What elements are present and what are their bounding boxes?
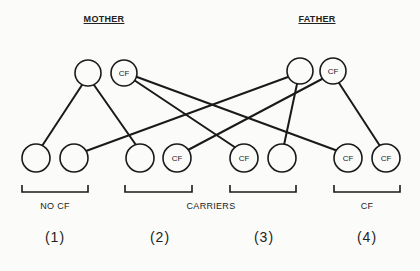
- carriers-label: CARRIERS: [187, 201, 236, 211]
- offspring-circle-1: [22, 144, 50, 172]
- offspring-circle-6: [268, 144, 296, 172]
- offspring-7-text: CF: [343, 154, 354, 163]
- line-m1-o1: [42, 85, 82, 146]
- father-label: FATHER: [298, 14, 335, 24]
- mother-cf-text: CF: [119, 69, 130, 78]
- bracket-group-2: [125, 185, 192, 192]
- bracket-group-1: [22, 185, 88, 192]
- line-m2-o7: [137, 77, 338, 151]
- group-number-3: (3): [254, 229, 274, 245]
- group-1-label: NO CF: [40, 201, 70, 211]
- offspring-5-text: CF: [239, 154, 250, 163]
- father-normal-circle: [287, 58, 313, 84]
- offspring-8-text: CF: [381, 154, 392, 163]
- mother-normal-circle: [75, 60, 101, 86]
- line-f2-o8: [339, 83, 380, 146]
- offspring-circle-2: [60, 144, 88, 172]
- offspring-circle-3: [126, 144, 154, 172]
- group-number-4: (4): [357, 229, 377, 245]
- mother-label: MOTHER: [84, 14, 125, 24]
- offspring-4-text: CF: [172, 154, 183, 163]
- father-cf-text: CF: [328, 67, 339, 76]
- group-number-1: (1): [45, 229, 65, 245]
- group-4-label: CF: [361, 201, 374, 211]
- bracket-group-3: [230, 185, 296, 192]
- group-number-2: (2): [150, 229, 170, 245]
- bracket-group-4: [334, 185, 400, 192]
